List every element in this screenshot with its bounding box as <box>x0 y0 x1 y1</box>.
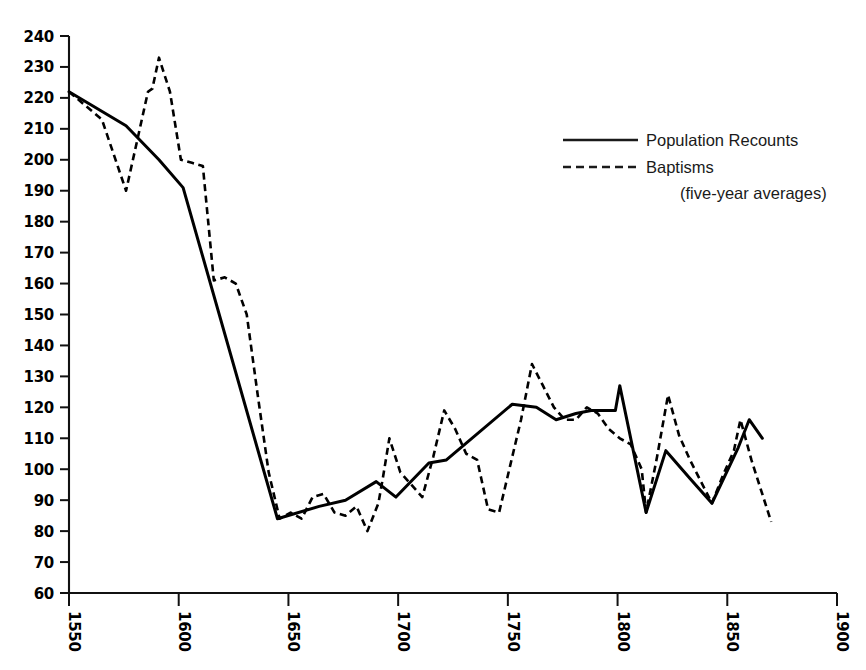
y-tick-label-70: 70 <box>34 554 54 572</box>
x-tick-label-1650: 1650 <box>284 611 302 652</box>
legend-note-five-year-averages: (five-year averages) <box>680 184 827 202</box>
x-tick-label-1550: 1550 <box>65 611 83 652</box>
y-tick-label-190: 190 <box>24 182 54 200</box>
y-tick-label-150: 150 <box>24 306 54 324</box>
chart-background <box>0 0 866 670</box>
legend-label-baptisms: Baptisms <box>646 158 714 176</box>
x-tick-label-1600: 1600 <box>175 611 193 652</box>
y-tick-label-80: 80 <box>34 523 54 541</box>
x-tick-label-1800: 1800 <box>614 611 632 652</box>
chart-container: 2402302202102001901801701601501401301201… <box>0 0 866 670</box>
x-tick-label-1750: 1750 <box>504 611 522 652</box>
y-tick-label-210: 210 <box>24 120 54 138</box>
y-tick-label-130: 130 <box>24 368 54 386</box>
y-tick-label-140: 140 <box>24 337 54 355</box>
y-tick-label-160: 160 <box>24 275 54 293</box>
y-tick-label-230: 230 <box>24 58 54 76</box>
y-tick-label-120: 120 <box>24 399 54 417</box>
x-tick-label-1850: 1850 <box>723 611 741 652</box>
y-tick-label-100: 100 <box>24 461 54 479</box>
x-tick-label-1700: 1700 <box>394 611 412 652</box>
y-tick-label-110: 110 <box>24 430 54 448</box>
y-tick-label-240: 240 <box>24 28 54 46</box>
y-tick-label-220: 220 <box>24 89 54 107</box>
y-tick-label-180: 180 <box>24 213 54 231</box>
x-tick-label-1900: 1900 <box>833 611 851 652</box>
y-tick-label-90: 90 <box>34 492 54 510</box>
population-baptisms-line-chart: 2402302202102001901801701601501401301201… <box>0 0 866 670</box>
y-tick-label-60: 60 <box>34 585 54 603</box>
y-tick-label-200: 200 <box>24 151 54 169</box>
y-tick-label-170: 170 <box>24 244 54 262</box>
legend-label-population-recounts: Population Recounts <box>646 131 798 149</box>
